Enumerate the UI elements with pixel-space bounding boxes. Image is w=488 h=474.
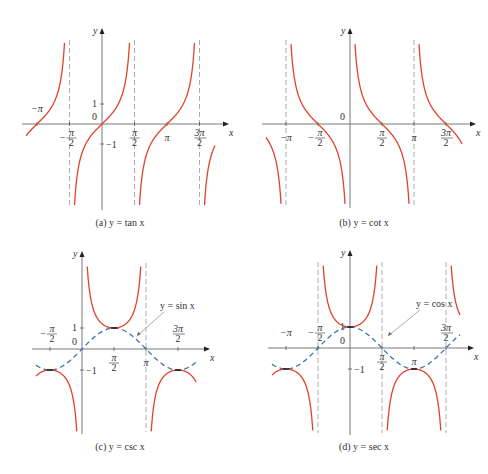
svg-text:0: 0 bbox=[340, 335, 345, 346]
svg-text:x: x bbox=[475, 127, 481, 138]
svg-text:π: π bbox=[143, 357, 149, 368]
graphs-canvas: xy01−1−π−π2π2π3π2(a) y = tan x xy0−π−π2π… bbox=[0, 0, 488, 474]
svg-text:−1: −1 bbox=[354, 364, 365, 375]
svg-text:−1: −1 bbox=[86, 365, 97, 376]
svg-text:π: π bbox=[411, 356, 417, 367]
svg-text:1: 1 bbox=[92, 98, 97, 109]
svg-text:2: 2 bbox=[317, 332, 322, 343]
svg-text:(c) y = csc x: (c) y = csc x bbox=[95, 441, 145, 453]
panel-b-cot: xy0−π−π2π2π3π2(b) y = cot x bbox=[262, 25, 481, 229]
svg-text:−π: −π bbox=[280, 132, 293, 143]
svg-text:π: π bbox=[411, 132, 417, 143]
svg-text:2: 2 bbox=[317, 137, 322, 148]
svg-text:y: y bbox=[340, 247, 346, 258]
svg-text:1: 1 bbox=[72, 322, 77, 333]
panel-d-sec: xy01−1−π−π2π2π3π2y = cos x(d) y = sec x bbox=[268, 247, 479, 453]
svg-text:x: x bbox=[228, 127, 234, 138]
svg-text:2: 2 bbox=[444, 137, 449, 148]
svg-text:y = sin x: y = sin x bbox=[160, 300, 195, 311]
svg-text:−1: −1 bbox=[106, 139, 117, 150]
svg-text:x: x bbox=[473, 351, 479, 362]
svg-text:2: 2 bbox=[69, 137, 74, 148]
svg-text:2: 2 bbox=[176, 333, 181, 344]
svg-text:−: − bbox=[308, 327, 314, 338]
svg-text:−π: −π bbox=[31, 103, 44, 114]
svg-text:−: − bbox=[308, 132, 314, 143]
svg-text:(a) y = tan x: (a) y = tan x bbox=[96, 217, 145, 229]
svg-text:(d) y = sec x: (d) y = sec x bbox=[339, 441, 389, 453]
trig-graphs-figure: xy01−1−π−π2π2π3π2(a) y = tan x xy0−π−π2π… bbox=[0, 0, 488, 474]
svg-text:2: 2 bbox=[197, 137, 202, 148]
svg-text:0: 0 bbox=[92, 111, 97, 122]
svg-text:0: 0 bbox=[72, 336, 77, 347]
panel-a-tan: xy01−1−π−π2π2π3π2(a) y = tan x bbox=[22, 25, 234, 229]
svg-text:0: 0 bbox=[340, 111, 345, 122]
svg-text:−: − bbox=[60, 132, 66, 143]
svg-text:y: y bbox=[92, 25, 98, 36]
svg-text:(b) y = cot x: (b) y = cot x bbox=[339, 217, 389, 229]
svg-text:2: 2 bbox=[49, 333, 54, 344]
svg-text:y: y bbox=[72, 248, 78, 259]
svg-text:y: y bbox=[340, 25, 346, 36]
svg-text:π: π bbox=[164, 132, 170, 143]
svg-text:−: − bbox=[40, 328, 46, 339]
svg-text:x: x bbox=[209, 352, 215, 363]
svg-text:2: 2 bbox=[112, 362, 117, 373]
panel-c-csc: xy01−1−π2π2π3π2y = sin x(c) y = csc x bbox=[32, 248, 215, 453]
svg-text:2: 2 bbox=[132, 137, 137, 148]
svg-text:−π: −π bbox=[280, 327, 293, 338]
svg-text:2: 2 bbox=[444, 332, 449, 343]
svg-text:y = cos x: y = cos x bbox=[416, 298, 452, 309]
svg-text:2: 2 bbox=[380, 361, 385, 372]
svg-text:2: 2 bbox=[380, 137, 385, 148]
